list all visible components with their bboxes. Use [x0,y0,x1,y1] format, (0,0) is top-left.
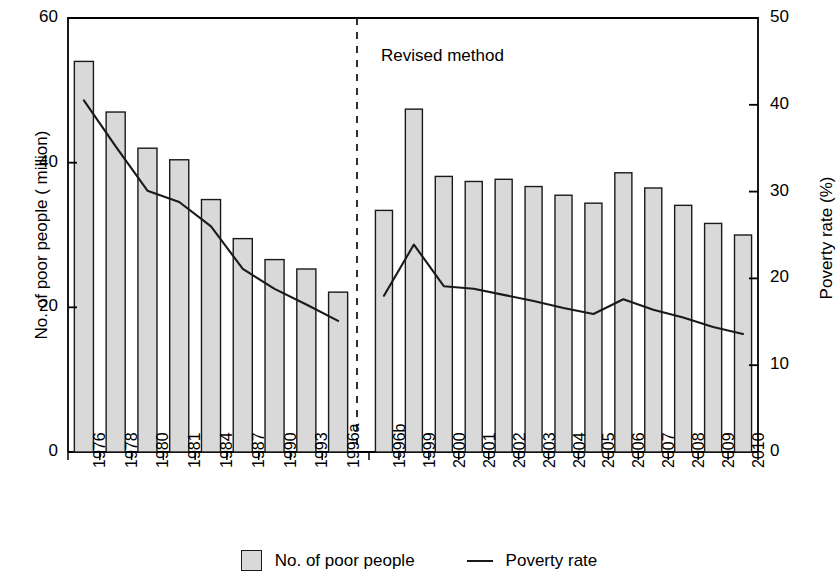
x-tick-2001: 2001 [481,432,499,468]
y-tick-right-20: 20 [770,267,810,287]
x-tick-1990: 1990 [282,432,300,468]
y-axis-left-title: No. of poor people ( million) [32,85,52,385]
legend-label-line: Poverty rate [506,551,598,571]
bar-2008 [675,205,692,452]
bar-1999 [405,109,422,452]
x-tick-2006: 2006 [630,432,648,468]
x-tick-2005: 2005 [600,432,618,468]
x-tick-1993: 1993 [313,432,331,468]
bar-1981 [170,160,189,452]
x-tick-2003: 2003 [541,432,559,468]
x-tick-1980: 1980 [154,432,172,468]
bar-2009 [705,223,722,452]
bar-swatch-icon [241,550,262,571]
chart-legend: No. of poor people Poverty rate [0,550,838,571]
bar-1987 [233,239,252,452]
y-axis-right-title: Poverty rate (%) [817,103,837,373]
chart-page: No. of poor people ( million) Poverty ra… [0,0,838,583]
bar-2007 [645,188,662,452]
bar-2005 [585,203,602,452]
x-tick-2004: 2004 [571,432,589,468]
bar-2004 [555,195,572,452]
bar-1976 [74,61,93,452]
y-tick-left-20: 20 [18,296,58,316]
x-tick-1984: 1984 [218,432,236,468]
x-tick-2008: 2008 [690,432,708,468]
x-tick-1999: 1999 [421,432,439,468]
y-tick-right-50: 50 [770,7,810,27]
x-tick-2000: 2000 [451,432,469,468]
bar-2000 [435,176,452,452]
legend-item-bars: No. of poor people [241,550,415,571]
x-tick-1978: 1978 [123,432,141,468]
x-tick-2002: 2002 [511,432,529,468]
x-tick-1996b: 1996b [391,424,409,469]
bar-1984 [201,200,220,452]
y-tick-right-0: 0 [770,441,810,461]
legend-label-bars: No. of poor people [275,551,415,571]
y-tick-right-10: 10 [770,354,810,374]
y-tick-left-60: 60 [18,7,58,27]
x-tick-1996a: 1996a [345,424,363,469]
x-tick-1987: 1987 [250,432,268,468]
x-tick-2009: 2009 [720,432,738,468]
y-tick-left-40: 40 [18,152,58,172]
bar-2003 [525,187,542,452]
bar-2001 [465,181,482,452]
y-tick-right-40: 40 [770,94,810,114]
legend-item-line: Poverty rate [467,551,598,571]
bar-1993 [297,269,316,452]
bar-2006 [615,173,632,452]
bar-1996b [375,210,392,452]
bar-1978 [106,112,125,452]
x-tick-2010: 2010 [750,432,768,468]
bar-2010 [735,235,752,452]
bar-2002 [495,179,512,452]
revised-method-annotation: Revised method [381,46,504,66]
y-tick-left-0: 0 [18,441,58,461]
line-swatch-icon [467,560,493,562]
x-tick-1976: 1976 [91,432,109,468]
chart-plot-area [0,0,838,583]
x-tick-2007: 2007 [660,432,678,468]
x-tick-1981: 1981 [186,432,204,468]
y-tick-right-30: 30 [770,181,810,201]
